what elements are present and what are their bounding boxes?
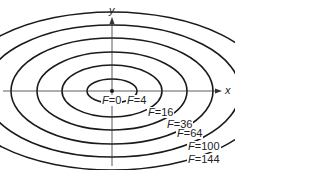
contour-label-0: F=0 <box>101 95 122 106</box>
origin-point <box>110 89 114 93</box>
contour-label-144: F=144 <box>187 154 221 165</box>
contour-label-64: F=64 <box>176 128 203 139</box>
contour-label-100: F=100 <box>187 141 221 152</box>
contour-label-16: F=16 <box>147 107 174 118</box>
y-axis-label: y <box>108 5 116 16</box>
x-axis-label: x <box>224 85 232 96</box>
contour-label-4: F=4 <box>126 95 147 106</box>
x-axis-arrow-icon <box>215 89 222 94</box>
y-axis-arrow-icon <box>110 17 115 24</box>
